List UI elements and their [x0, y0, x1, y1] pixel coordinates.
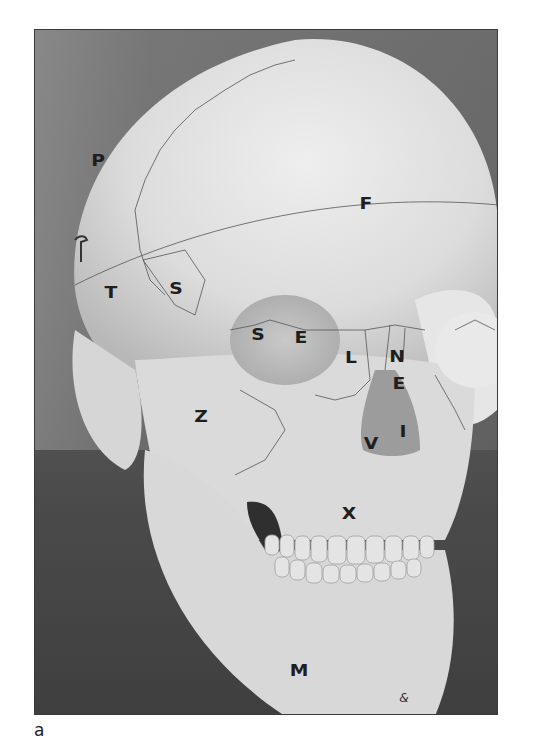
label-mandible: M [290, 664, 309, 679]
label-vomer: V [364, 437, 379, 452]
label-inferior-concha: I [400, 425, 407, 440]
label-nasal: N [389, 350, 405, 365]
label-sphenoid-greater-wing: S [169, 282, 183, 297]
label-maxilla: X [342, 507, 356, 522]
label-ethmoid-orbit: E [295, 331, 308, 346]
skull-illustration [35, 30, 498, 715]
label-frontal: F [360, 197, 373, 212]
label-parietal: P [91, 154, 105, 169]
label-sphenoid-orbit: S [251, 328, 265, 343]
label-lacrimal: L [345, 351, 357, 366]
skull-photograph: P F T S S E L N E Z V I X M & [34, 29, 498, 715]
label-temporal: T [105, 286, 118, 301]
signature-mark: & [399, 692, 408, 704]
figure-caption: a [34, 722, 44, 739]
label-ethmoid-nasal: E [393, 377, 406, 392]
label-zygomatic: Z [194, 410, 208, 425]
